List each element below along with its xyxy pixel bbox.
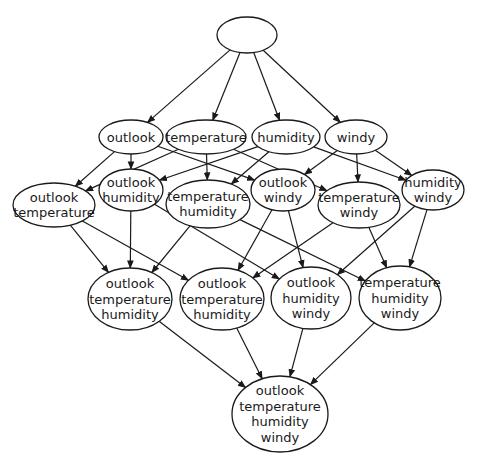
lattice-node-oh: outlookhumidity bbox=[99, 169, 163, 211]
lattice-node-t: temperature bbox=[165, 120, 247, 154]
node-label: humidity bbox=[102, 190, 160, 205]
edge-arrow-w-to-tw bbox=[357, 154, 358, 182]
node-label: outlook bbox=[287, 275, 336, 290]
edge-arrow-root-to-w bbox=[263, 50, 340, 122]
node-label: humidity bbox=[179, 204, 237, 219]
node-label: windy bbox=[381, 306, 420, 321]
lattice-node-th: temperaturehumidity bbox=[166, 180, 250, 228]
node-label: humidity bbox=[251, 414, 309, 429]
node-layer: outlooktemperaturehumiditywindyoutlookte… bbox=[13, 17, 464, 452]
node-label: windy bbox=[264, 190, 303, 205]
node-label: windy bbox=[261, 430, 300, 445]
node-label: humidity bbox=[193, 307, 251, 322]
node-label: windy bbox=[414, 190, 453, 205]
node-label: windy bbox=[337, 130, 376, 145]
node-label: outlook bbox=[256, 383, 305, 398]
node-label: outlook bbox=[30, 190, 79, 205]
edge-arrow-ohw-to-othw bbox=[290, 328, 303, 376]
node-label: temperature bbox=[359, 275, 441, 290]
lattice-node-othw: outlooktemperaturehumiditywindy bbox=[232, 376, 328, 452]
node-label: outlook bbox=[106, 276, 155, 291]
lattice-node-ow: outlookwindy bbox=[251, 169, 315, 211]
lattice-node-oth: outlooktemperaturehumidity bbox=[88, 268, 172, 330]
node-label: temperature bbox=[89, 292, 171, 307]
edge-arrow-hw-to-thw bbox=[410, 210, 428, 267]
edge-arrow-oth-to-othw bbox=[159, 321, 245, 387]
node-label: outlook bbox=[107, 175, 156, 190]
lattice-node-thw: temperaturehumiditywindy bbox=[359, 266, 441, 330]
node-label: windy bbox=[340, 205, 379, 220]
edge-arrow-root-to-t bbox=[213, 53, 240, 121]
lattice-node-ohw: outlookhumiditywindy bbox=[271, 267, 351, 329]
lattice-node-w: windy bbox=[325, 120, 387, 154]
node-label: outlook bbox=[198, 276, 247, 291]
edge-arrow-oh-to-oth bbox=[130, 211, 131, 268]
node-label: humidity bbox=[404, 175, 462, 190]
node-label: temperature bbox=[318, 190, 400, 205]
edge-arrow-w-to-ow bbox=[305, 151, 338, 175]
node-label: temperature bbox=[13, 205, 95, 220]
node-label: outlook bbox=[107, 130, 156, 145]
lattice-node-hw: humiditywindy bbox=[402, 170, 464, 210]
node-label: humidity bbox=[101, 307, 159, 322]
lattice-node-h: humidity bbox=[252, 120, 320, 154]
edge-arrow-ow-to-otw bbox=[238, 210, 272, 271]
node-label: temperature bbox=[167, 189, 249, 204]
node-label: humidity bbox=[371, 291, 429, 306]
lattice-node-o: outlook bbox=[99, 120, 163, 154]
lattice-node-tw: temperaturewindy bbox=[318, 182, 400, 228]
node-label: humidity bbox=[257, 130, 315, 145]
node-label: temperature bbox=[239, 399, 321, 414]
attribute-lattice-diagram: outlooktemperaturehumiditywindyoutlookte… bbox=[0, 0, 477, 464]
edge-arrow-ow-to-ohw bbox=[288, 211, 303, 268]
edge-arrow-t-to-th bbox=[207, 154, 208, 180]
node-label: humidity bbox=[282, 291, 340, 306]
lattice-node-ot: outlooktemperature bbox=[13, 183, 95, 227]
edge-arrow-otw-to-othw bbox=[237, 328, 263, 379]
node-label: temperature bbox=[181, 292, 263, 307]
edge-arrow-th-to-oth bbox=[152, 226, 190, 273]
node-label: temperature bbox=[165, 130, 247, 145]
lattice-node-otw: outlooktemperaturehumidity bbox=[180, 268, 264, 330]
node-label: windy bbox=[292, 306, 331, 321]
node-label: outlook bbox=[259, 175, 308, 190]
lattice-node-root bbox=[217, 17, 277, 53]
edge-arrow-root-to-o bbox=[148, 50, 231, 123]
node-ellipse bbox=[217, 17, 277, 53]
edge-arrow-thw-to-othw bbox=[310, 323, 374, 385]
